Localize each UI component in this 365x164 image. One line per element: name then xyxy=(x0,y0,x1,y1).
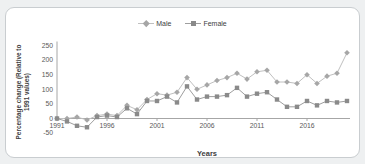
male-series-line xyxy=(57,53,347,120)
female-data-point-square xyxy=(135,112,139,116)
y-tick-label: -50 xyxy=(43,129,53,136)
female-data-point-square xyxy=(215,94,219,98)
female-data-point-square xyxy=(185,84,189,88)
female-data-point-square xyxy=(155,99,159,103)
x-tick-label: 2001 xyxy=(149,122,164,129)
female-data-point-square xyxy=(225,93,229,97)
female-data-point-square xyxy=(275,97,279,101)
female-data-point-square xyxy=(205,94,209,98)
female-data-point-square xyxy=(105,113,109,117)
female-data-point-square xyxy=(195,97,199,101)
female-data-point-square xyxy=(165,94,169,98)
female-data-point-square xyxy=(325,99,329,103)
female-data-point-square xyxy=(75,124,79,128)
y-tick-label: 200 xyxy=(42,56,54,63)
x-axis-title: Years xyxy=(62,149,352,158)
female-data-point-square xyxy=(265,90,269,94)
x-tick-label: 2011 xyxy=(250,122,265,129)
chart-card: Male Female Percentage change (Relative … xyxy=(5,7,360,158)
plot-svg: -500501001502002501991199620012006201120… xyxy=(6,8,364,157)
female-data-point-square xyxy=(175,100,179,104)
male-data-point-diamond xyxy=(284,79,290,85)
female-data-point-square xyxy=(85,125,89,129)
male-data-point-diamond xyxy=(214,78,220,84)
female-data-point-square xyxy=(65,119,69,123)
y-tick-label: 150 xyxy=(42,71,54,78)
male-data-point-diamond xyxy=(154,91,160,97)
female-data-point-square xyxy=(315,103,319,107)
male-data-point-diamond xyxy=(224,75,230,81)
x-tick-label: 1996 xyxy=(99,122,114,129)
female-data-point-square xyxy=(145,99,149,103)
y-tick-label: 250 xyxy=(42,42,54,49)
y-tick-label: 100 xyxy=(42,86,54,93)
female-data-point-square xyxy=(345,99,349,103)
x-tick-label: 2006 xyxy=(199,122,214,129)
female-data-point-square xyxy=(95,115,99,119)
male-data-point-diamond xyxy=(204,82,210,88)
female-data-point-square xyxy=(125,106,129,110)
male-data-point-diamond xyxy=(234,70,240,76)
female-data-point-square xyxy=(305,99,309,103)
x-tick-label: 1991 xyxy=(49,122,64,129)
female-data-point-square xyxy=(295,105,299,109)
female-data-point-square xyxy=(285,105,289,109)
female-data-point-square xyxy=(335,100,339,104)
y-tick-label: 0 xyxy=(49,115,53,122)
x-tick-label: 2016 xyxy=(299,122,314,129)
male-data-point-diamond xyxy=(174,89,180,95)
female-data-point-square xyxy=(255,91,259,95)
male-data-point-diamond xyxy=(334,70,340,76)
female-data-point-square xyxy=(115,115,119,119)
female-data-point-square xyxy=(55,116,59,120)
female-data-point-square xyxy=(245,94,249,98)
y-tick-label: 50 xyxy=(45,100,53,107)
female-data-point-square xyxy=(235,86,239,90)
male-data-point-diamond xyxy=(344,50,350,56)
